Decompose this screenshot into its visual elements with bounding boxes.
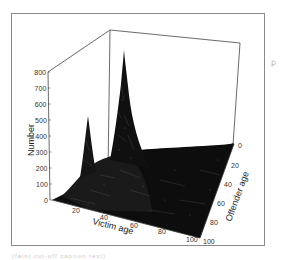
surface-chart: 800 700 600 500 400 300 200 100 0 Number: [0, 0, 282, 260]
z-tick: 200: [36, 165, 48, 172]
z-axis-label: Number: [26, 124, 36, 156]
z-tick: 600: [35, 101, 47, 108]
x-tick: 80: [158, 228, 166, 235]
caption-cutoff: (faint cut-off caption text): [12, 253, 267, 259]
y-axis-label: Offender age: [223, 170, 250, 223]
y-tick: 0: [238, 142, 242, 149]
y-tick: 40: [224, 181, 232, 188]
z-tick: 300: [36, 149, 48, 156]
z-tick: 800: [34, 69, 46, 76]
z-tick: 400: [35, 133, 47, 140]
x-tick: 20: [72, 207, 80, 214]
z-tick: 100: [36, 181, 48, 188]
z-tick: 700: [35, 85, 47, 92]
z-tick: 500: [35, 117, 47, 124]
y-tick: 80: [210, 219, 218, 226]
x-tick: 100: [186, 236, 198, 243]
margin-mark: ꝑ: [271, 58, 276, 67]
y-tick: 60: [217, 200, 225, 207]
y-tick: 20: [231, 162, 239, 169]
y-tick: 100: [203, 238, 215, 245]
z-tick: 0: [44, 197, 48, 204]
